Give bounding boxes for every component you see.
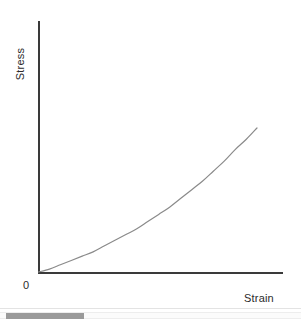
chart-page: Stress Strain 0 [0, 0, 301, 321]
stress-strain-chart: Stress Strain 0 [0, 0, 301, 308]
x-axis-label: Strain [244, 292, 274, 304]
scrollbar-thumb[interactable] [6, 313, 84, 319]
origin-tick-label: 0 [23, 279, 29, 291]
stress-strain-curve [39, 128, 258, 272]
plot-area [0, 0, 301, 308]
horizontal-scrollbar[interactable] [0, 308, 301, 321]
y-axis-label: Stress [14, 38, 26, 90]
